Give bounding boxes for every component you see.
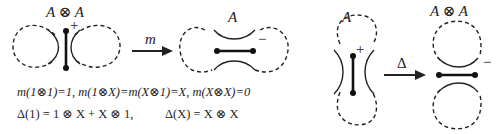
operator-delta: Δ: [397, 55, 407, 71]
equation-comultiplication-1: Δ(1) = 1 ⊗ X + X ⊗ 1,: [17, 106, 133, 122]
dashed-circle-right: [75, 25, 120, 67]
panel-delta-source: A +: [334, 9, 376, 125]
equation-comultiplication-x: Δ(X) = X ⊗ X: [165, 106, 238, 122]
label-target-delta: A ⊗ A: [429, 3, 469, 19]
panel-m-source: A ⊗ A +: [13, 4, 120, 71]
equation-multiplication: m(1⊗1)=1, m(1⊗X)=m(X⊗1)=X, m(X⊗X)=0: [17, 84, 250, 100]
arrow-m: m: [132, 31, 173, 56]
arrow-delta: Δ: [384, 55, 426, 80]
sign-minus-delta: −: [483, 54, 491, 70]
operator-m: m: [145, 31, 156, 47]
sign-plus-delta: +: [356, 41, 364, 57]
label-target-m: A: [227, 9, 238, 25]
dashed-circle-left: [13, 25, 55, 67]
label-source-m: A ⊗ A: [45, 4, 85, 20]
panel-delta-target: A ⊗ A −: [429, 3, 491, 129]
panel-m-target: A −: [180, 9, 288, 72]
sign-minus-m: −: [258, 31, 266, 47]
label-source-delta: A: [341, 9, 352, 25]
sign-plus-m: +: [70, 17, 78, 33]
